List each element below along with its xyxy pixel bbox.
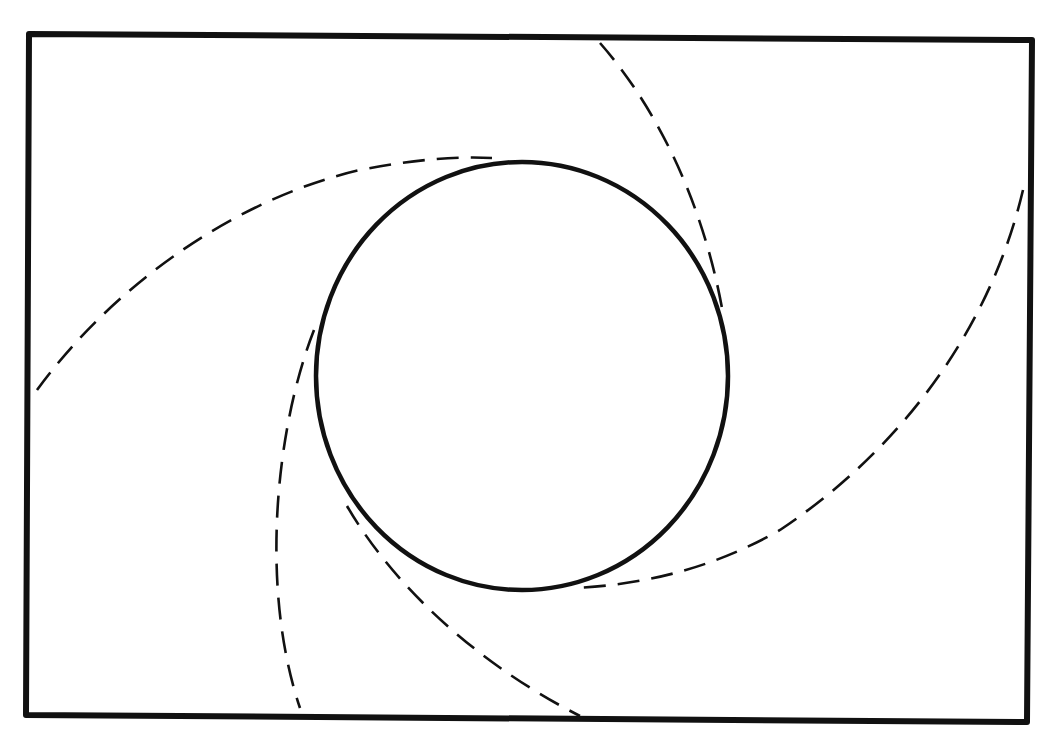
right-dashed-arc (574, 190, 1023, 588)
lower-left-dashed-arc (276, 330, 314, 708)
swirl-diagram (0, 0, 1054, 736)
outer-frame (26, 34, 1032, 722)
dashed-arcs-group (37, 43, 1023, 716)
bottom-dashed-arc (347, 506, 580, 716)
upper-left-dashed-arc (37, 158, 492, 391)
upper-right-dashed-arc (600, 43, 722, 308)
central-circle (316, 162, 728, 590)
